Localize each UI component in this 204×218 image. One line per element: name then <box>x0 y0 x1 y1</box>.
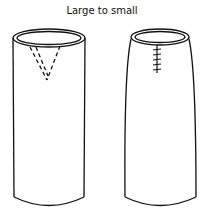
stitch-seam-icon <box>153 45 161 73</box>
cylinder-after <box>125 29 196 206</box>
cylinder-before-left-side <box>13 38 14 197</box>
diagram-figures <box>0 0 204 218</box>
dart-dashed-v-icon <box>30 46 60 80</box>
cylinder-before-rim-inner <box>17 32 81 45</box>
cylinder-before-right-side <box>84 38 85 197</box>
cylinder-after-rim-inner <box>135 32 185 43</box>
cylinder-before-bottom <box>14 197 84 206</box>
cylinder-before <box>13 29 85 206</box>
cylinder-after-right-side <box>189 39 196 197</box>
cylinder-after-left-side <box>125 39 131 197</box>
cylinder-after-bottom <box>125 197 196 206</box>
